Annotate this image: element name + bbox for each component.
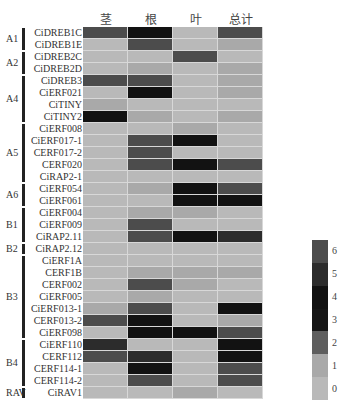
heatmap-cell — [173, 195, 218, 206]
heatmap-cell — [128, 243, 173, 254]
heatmap-cell — [83, 51, 128, 62]
heatmap-cell — [218, 87, 263, 98]
column-header-leaf: 叶 — [173, 10, 218, 28]
heatmap-cell — [83, 171, 128, 182]
heatmap-cell — [128, 255, 173, 266]
heatmap-cell — [83, 339, 128, 350]
group-bracket — [22, 76, 25, 122]
heatmap-cell — [218, 303, 263, 314]
heatmap-cell — [83, 27, 128, 38]
heatmap-row — [83, 351, 263, 363]
heatmap-cell — [83, 279, 128, 290]
heatmap-cell — [83, 87, 128, 98]
group-label: RAV — [6, 387, 26, 398]
heatmap-cell — [218, 195, 263, 206]
heatmap-cell — [128, 27, 173, 38]
heatmap-cell — [173, 183, 218, 194]
row-label: CiERF098 — [39, 327, 82, 338]
heatmap-cell — [173, 147, 218, 158]
heatmap-cell — [218, 363, 263, 374]
group-label: B2 — [6, 243, 18, 254]
heatmap-cell — [218, 351, 263, 362]
group-label: B4 — [6, 357, 18, 368]
legend-swatch — [312, 354, 328, 377]
heatmap-cell — [218, 327, 263, 338]
legend-tick-label: 1 — [332, 360, 337, 371]
heatmap-cell — [128, 99, 173, 110]
heatmap-cell — [128, 219, 173, 230]
group-bracket — [22, 52, 25, 74]
row-label: CiERF110 — [40, 339, 82, 350]
legend-swatch — [312, 263, 328, 286]
heatmap-row — [83, 243, 263, 255]
heatmap-cell — [128, 207, 173, 218]
heatmap-cell — [128, 327, 173, 338]
heatmap-row — [83, 111, 263, 123]
group-bracket — [22, 124, 25, 182]
heatmap-row — [83, 99, 263, 111]
row-label: CiRAV1 — [48, 387, 82, 398]
heatmap-row — [83, 171, 263, 183]
group-label: A2 — [6, 57, 18, 68]
heatmap-row — [83, 375, 263, 387]
heatmap-row — [83, 363, 263, 375]
heatmap-cell — [83, 75, 128, 86]
group-bracket — [22, 340, 25, 386]
heatmap-row — [83, 327, 263, 339]
heatmap-cell — [83, 243, 128, 254]
group-label: B1 — [6, 219, 18, 230]
heatmap-row — [83, 291, 263, 303]
heatmap-cell — [218, 183, 263, 194]
heatmap-cell — [218, 219, 263, 230]
heatmap-cell — [128, 339, 173, 350]
heatmap-cell — [173, 27, 218, 38]
heatmap-cell — [218, 315, 263, 326]
heatmap-cell — [218, 267, 263, 278]
heatmap-row — [83, 123, 263, 135]
heatmap-cell — [173, 231, 218, 242]
heatmap-row — [83, 219, 263, 231]
heatmap-cell — [173, 267, 218, 278]
heatmap-cell — [173, 159, 218, 170]
heatmap-row — [83, 195, 263, 207]
heatmap-cell — [173, 303, 218, 314]
heatmap-row — [83, 51, 263, 63]
heatmap-cell — [128, 63, 173, 74]
legend-tick-label: 6 — [332, 245, 337, 256]
legend-swatch — [312, 331, 328, 354]
heatmap-row — [83, 255, 263, 267]
heatmap-cell — [218, 75, 263, 86]
heatmap-cell — [218, 387, 263, 398]
heatmap-cell — [218, 123, 263, 134]
heatmap-cell — [83, 183, 128, 194]
heatmap-cell — [173, 291, 218, 302]
heatmap-cell — [173, 171, 218, 182]
heatmap-cell — [83, 195, 128, 206]
heatmap-cell — [128, 159, 173, 170]
row-label: CERF002 — [42, 279, 82, 290]
heatmap-cell — [173, 375, 218, 386]
heatmap-cell — [83, 135, 128, 146]
legend-swatch — [312, 240, 328, 263]
heatmap-row — [83, 315, 263, 327]
heatmap-cell — [173, 207, 218, 218]
legend-swatch — [312, 309, 328, 332]
heatmap-row — [83, 135, 263, 147]
row-label: CiDREB2C — [34, 51, 82, 62]
legend-tick-label: 3 — [332, 314, 337, 325]
row-label: CERF114-1 — [34, 363, 82, 374]
heatmap-cell — [128, 375, 173, 386]
heatmap-cell — [83, 267, 128, 278]
heatmap-cell — [173, 51, 218, 62]
heatmap-row — [83, 387, 263, 399]
heatmap-cell — [128, 351, 173, 362]
heatmap-cell — [83, 363, 128, 374]
legend-swatch — [312, 377, 328, 400]
heatmap-row — [83, 267, 263, 279]
heatmap-cell — [173, 75, 218, 86]
heatmap-row — [83, 231, 263, 243]
row-label: CERF114-2 — [34, 375, 82, 386]
row-label: CiERF004 — [39, 207, 82, 218]
heatmap-cell — [173, 351, 218, 362]
row-label: CiDREB3 — [41, 75, 82, 86]
